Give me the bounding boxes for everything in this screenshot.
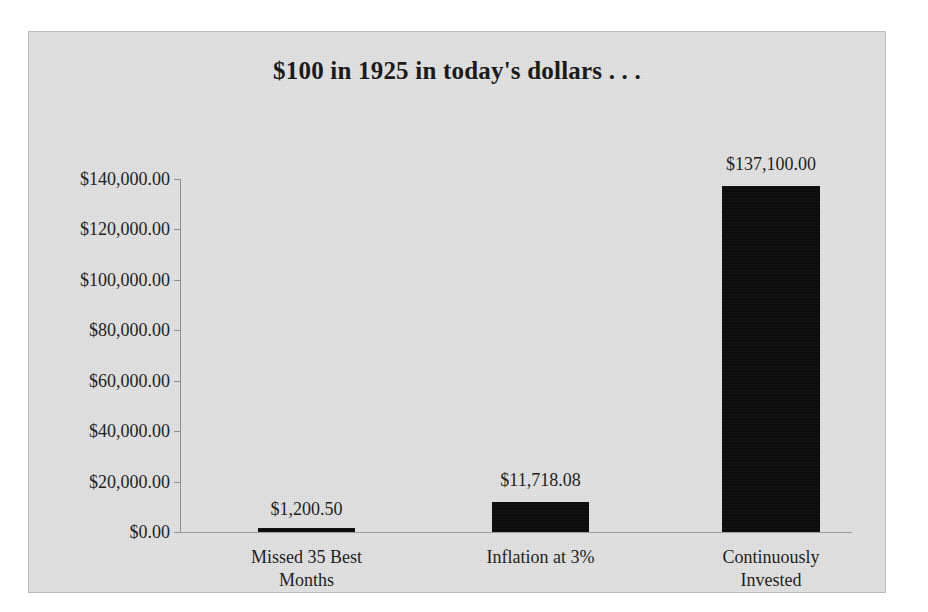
- x-axis-label-inflation-at-3: Inflation at 3%: [436, 546, 646, 569]
- bar-value-label-inflation-at-3: $11,718.08: [500, 470, 580, 491]
- bar-continuously-invested[interactable]: [722, 186, 820, 532]
- x-axis-label-continuously-invested: Continuously Invested: [666, 546, 876, 591]
- bar-value-label-continuously-invested: $137,100.00: [726, 154, 816, 175]
- x-axis-label-line: Continuously: [666, 546, 876, 569]
- y-axis-label-100000: $100,000.00: [80, 269, 170, 290]
- y-axis-line: [180, 179, 181, 533]
- y-axis-tick: [174, 431, 180, 432]
- x-axis-line: [180, 532, 852, 533]
- x-axis-label-line: Invested: [666, 569, 876, 592]
- y-axis-tick: [174, 280, 180, 281]
- y-axis-label-40000: $40,000.00: [89, 421, 170, 442]
- y-axis-tick: [174, 330, 180, 331]
- chart-title: $100 in 1925 in today's dollars . . .: [28, 57, 886, 85]
- chart-page: $100 in 1925 in today's dollars . . . $1…: [0, 0, 928, 612]
- y-axis-tick: [174, 381, 180, 382]
- y-axis-label-120000: $120,000.00: [80, 219, 170, 240]
- y-axis-label-80000: $80,000.00: [89, 320, 170, 341]
- y-axis-label-0: $0.00: [130, 522, 171, 543]
- x-axis-label-line: Months: [202, 569, 412, 592]
- chart-panel: $100 in 1925 in today's dollars . . . $1…: [28, 31, 886, 593]
- y-axis-label-140000: $140,000.00: [80, 169, 170, 190]
- y-axis-tick: [174, 482, 180, 483]
- x-axis-label-line: Missed 35 Best: [202, 546, 412, 569]
- bar-missed-35-best-months[interactable]: [258, 528, 355, 532]
- x-axis-label-line: Inflation at 3%: [436, 546, 646, 569]
- bar-group-missed-35-best-months: $1,200.50 Missed 35 Best Months: [258, 178, 355, 532]
- y-axis-tick: [174, 532, 180, 533]
- y-axis-label-20000: $20,000.00: [89, 471, 170, 492]
- x-axis-label-missed-35-best-months: Missed 35 Best Months: [202, 546, 412, 591]
- bar-group-continuously-invested: $137,100.00 Continuously Invested: [722, 178, 820, 532]
- bar-value-label-missed-35-best-months: $1,200.50: [271, 499, 343, 520]
- y-axis-label-60000: $60,000.00: [89, 370, 170, 391]
- y-axis-tick: [174, 229, 180, 230]
- bar-inflation-at-3[interactable]: [492, 502, 589, 532]
- bar-group-inflation-at-3: $11,718.08 Inflation at 3%: [492, 178, 589, 532]
- y-axis-tick: [174, 179, 180, 180]
- plot-area: $140,000.00 $120,000.00 $100,000.00 $80,…: [180, 121, 856, 533]
